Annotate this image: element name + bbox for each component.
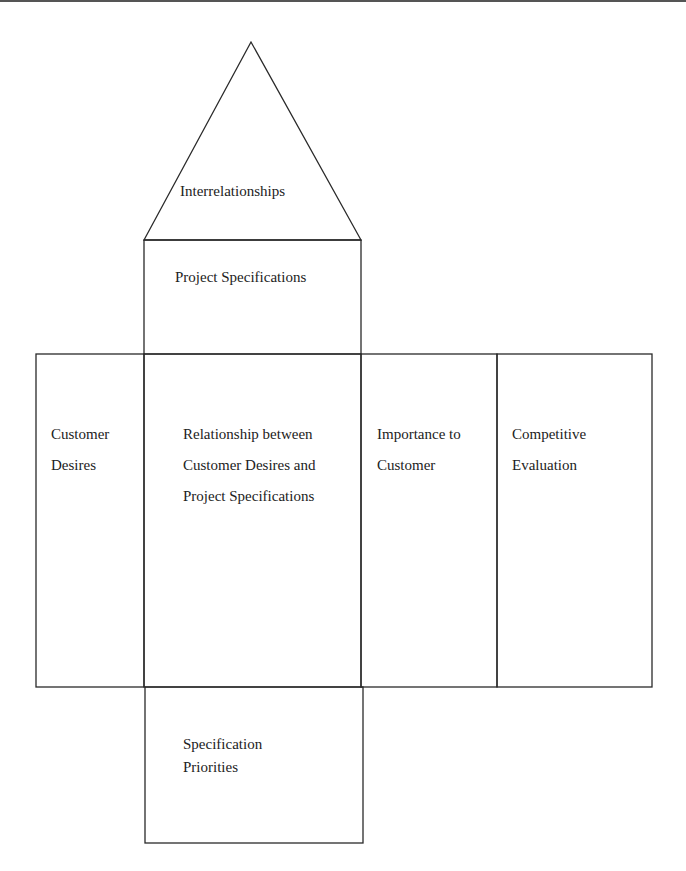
specification-line-2: Priorities [183, 756, 262, 779]
importance-box [361, 354, 497, 687]
relationship-line-3: Project Specifications [183, 481, 315, 512]
customer-desires-line-2: Desires [51, 450, 109, 481]
importance-label: Importance to Customer [377, 419, 461, 481]
importance-line-1: Importance to [377, 419, 461, 450]
relationship-matrix-box [144, 354, 361, 687]
relationship-matrix-label: Relationship between Customer Desires an… [183, 419, 315, 512]
competitive-line-2: Evaluation [512, 450, 586, 481]
importance-line-2: Customer [377, 450, 461, 481]
customer-desires-line-1: Customer [51, 419, 109, 450]
competitive-evaluation-box [497, 354, 652, 687]
roof-triangle [144, 42, 361, 240]
roof-label: Interrelationships [180, 176, 285, 207]
customer-desires-box [36, 354, 144, 687]
relationship-line-1: Relationship between [183, 419, 315, 450]
ceiling-label: Project Specifications [175, 262, 306, 293]
ceiling-box [144, 240, 361, 354]
competitive-evaluation-label: Competitive Evaluation [512, 419, 586, 481]
specification-priorities-label: Specification Priorities [183, 733, 262, 779]
project-specifications-label: Project Specifications [175, 262, 306, 293]
interrelationships-label: Interrelationships [180, 176, 285, 207]
specification-line-1: Specification [183, 733, 262, 756]
relationship-line-2: Customer Desires and [183, 450, 315, 481]
competitive-line-1: Competitive [512, 419, 586, 450]
customer-desires-label: Customer Desires [51, 419, 109, 481]
